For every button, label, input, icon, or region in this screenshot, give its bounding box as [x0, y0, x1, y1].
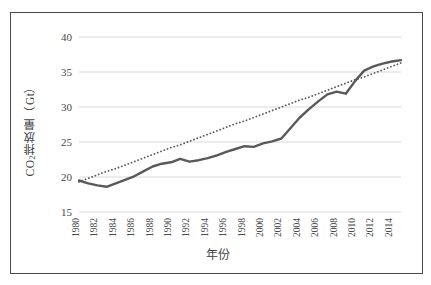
x-axis-tick-label: 2010 — [347, 218, 357, 237]
x-axis-tick-label: 1986 — [126, 218, 136, 237]
chart-figure: 1520253035401980198219841986198819901992… — [10, 12, 423, 274]
y-axis-tick-label: 30 — [61, 101, 73, 113]
y-axis-title-text: CO2排放量（Gt） — [22, 80, 38, 176]
y-axis-title-suffix: 排放量（Gt） — [24, 80, 36, 155]
y-axis-tick-label: 25 — [61, 136, 73, 148]
x-axis-tick-label: 2012 — [365, 218, 375, 237]
x-axis-tick-label: 1994 — [200, 218, 210, 237]
y-axis-title: CO2排放量（Gt） — [17, 43, 43, 213]
x-axis-tick-label: 2008 — [329, 218, 339, 237]
x-axis-tick-label: 2002 — [273, 218, 283, 237]
y-axis-title-prefix: CO — [24, 159, 36, 176]
x-axis-tick-label: 1988 — [145, 218, 155, 237]
x-axis-tick-label: 1980 — [71, 218, 81, 237]
x-axis-title: 年份 — [11, 245, 424, 263]
x-axis-tick-label: 1992 — [181, 218, 191, 237]
y-axis-tick-label: 15 — [61, 206, 73, 218]
plot-wrapper: 1520253035401980198219841986198819901992… — [11, 13, 422, 273]
x-axis-title-text: 年份 — [206, 248, 230, 262]
x-axis-tick-label: 2014 — [384, 218, 394, 237]
x-axis-tick-label: 1998 — [237, 218, 247, 237]
x-axis-tick-label: 1984 — [108, 218, 118, 237]
line-chart-svg: 1520253035401980198219841986198819901992… — [11, 13, 424, 275]
y-axis-tick-label: 40 — [61, 31, 73, 43]
data-series-line — [79, 60, 401, 187]
y-axis-tick-label: 35 — [61, 66, 73, 78]
x-axis-tick-label: 1990 — [163, 218, 173, 237]
x-axis-tick-label: 2004 — [292, 218, 302, 237]
y-axis-tick-label: 20 — [61, 171, 73, 183]
x-axis-tick-label: 1982 — [89, 218, 99, 237]
x-axis-tick-label: 2006 — [310, 218, 320, 237]
x-axis-tick-label: 2000 — [255, 218, 265, 237]
trendline-series — [79, 63, 401, 182]
x-axis-tick-label: 1996 — [218, 218, 228, 237]
